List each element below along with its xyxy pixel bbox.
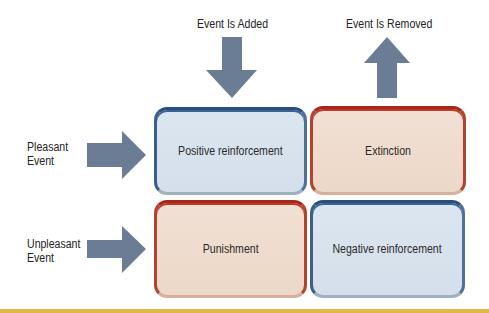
row-label-unpleasant-line2: Event xyxy=(27,251,80,265)
cell-text: Extinction xyxy=(365,144,411,158)
row-label-pleasant: Pleasant Event xyxy=(27,140,68,168)
cell-text: Punishment xyxy=(203,242,259,256)
row-label-unpleasant: Unpleasant Event xyxy=(27,237,80,265)
bottom-accent-line xyxy=(0,309,489,313)
row-label-pleasant-line1: Pleasant xyxy=(27,140,68,154)
right-arrow-icon xyxy=(86,225,148,277)
row-label-pleasant-line2: Event xyxy=(27,154,68,168)
cell-text: Negative reinforcement xyxy=(333,242,442,256)
down-arrow-icon xyxy=(204,36,260,100)
right-arrow-icon xyxy=(86,130,148,182)
cell-extinction: Extinction xyxy=(310,106,466,195)
cell-negative-reinforcement: Negative reinforcement xyxy=(310,200,465,298)
cell-punishment: Punishment xyxy=(154,200,307,298)
cell-text: Positive reinforcement xyxy=(178,144,282,158)
column-label-event-added: Event Is Added xyxy=(197,17,268,31)
row-label-unpleasant-line1: Unpleasant xyxy=(27,237,80,251)
column-label-event-removed: Event Is Removed xyxy=(346,17,432,31)
up-arrow-icon xyxy=(362,35,414,100)
cell-positive-reinforcement: Positive reinforcement xyxy=(154,107,307,195)
